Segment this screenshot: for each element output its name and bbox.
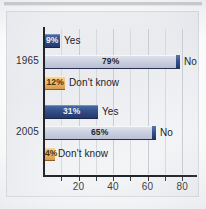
x-tick-50: [130, 177, 131, 181]
group-label-2005: 2005: [9, 126, 39, 137]
x-tick-70: [165, 177, 166, 181]
bar-label-1965-no: No: [184, 55, 197, 68]
bar-value-2005-dont-know: 4%: [45, 147, 58, 160]
plot-area: 9% Yes 79% No 12% Don't know 31% Yes 65%…: [44, 29, 196, 174]
group-label-1965: 1965: [9, 55, 39, 66]
gridline-80: [182, 29, 183, 174]
bar-value-1965-dont-know: 12%: [47, 76, 64, 89]
bar-value-1965-yes: 9%: [46, 34, 59, 47]
gridline-40: [113, 29, 114, 174]
bar-chart-panel: 9% Yes 79% No 12% Don't know 31% Yes 65%…: [6, 11, 199, 197]
x-tick-label-60: 60: [137, 181, 159, 192]
y-axis-line: [43, 27, 45, 177]
x-tick-30: [96, 177, 97, 181]
x-tick-label-20: 20: [68, 181, 90, 192]
bar-label-1965-dont-know: Don't know: [69, 76, 119, 89]
x-axis-line: [43, 175, 197, 177]
bar-value-2005-no: 65%: [91, 126, 108, 139]
x-tick-label-40: 40: [102, 181, 124, 192]
bar-end-cap-2005-no: [152, 126, 156, 139]
bar-label-2005-dont-know: Don't know: [58, 147, 108, 160]
x-tick-label-80: 80: [171, 181, 193, 192]
bar-label-1965-yes: Yes: [64, 34, 81, 47]
page-top-rule-shadow: [4, 5, 202, 6]
bar-label-2005-yes: Yes: [102, 105, 119, 118]
bar-value-2005-yes: 31%: [63, 105, 80, 118]
bar-end-cap-1965-no: [176, 55, 180, 68]
x-tick-10: [61, 177, 62, 181]
bar-value-1965-no: 79%: [102, 55, 119, 68]
gridline-60: [148, 29, 149, 174]
bar-label-2005-no: No: [160, 126, 173, 139]
gridline-50: [130, 29, 131, 174]
scanned-page: 9% Yes 79% No 12% Don't know 31% Yes 65%…: [0, 0, 206, 209]
gridline-70: [165, 29, 166, 174]
